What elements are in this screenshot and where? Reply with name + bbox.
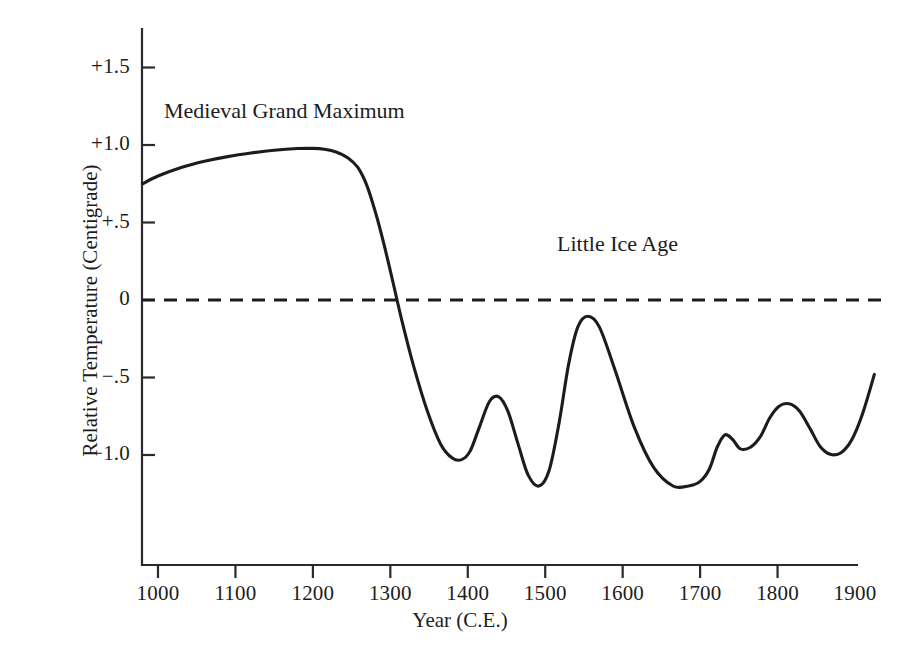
y-tick-label: 0 [40, 286, 130, 311]
annotation-little-ice-age: Little Ice Age [557, 231, 678, 257]
y-tick-label: +.5 [40, 209, 130, 234]
chart-figure: Relative Temperature (Centigrade) Year (… [0, 0, 918, 670]
temperature-curve [143, 148, 875, 487]
y-tick-label: +1.5 [40, 54, 130, 79]
x-axis-label: Year (C.E.) [330, 608, 590, 633]
y-tick-label: −.5 [40, 364, 130, 389]
x-tick-label: 1900 [810, 581, 900, 606]
chart-plot-area [0, 0, 918, 670]
x-axis-ticks [158, 565, 778, 578]
y-tick-label: −1.0 [40, 441, 130, 466]
y-axis-ticks [142, 68, 155, 456]
annotation-medieval-grand-maximum: Medieval Grand Maximum [164, 98, 405, 124]
y-tick-label: +1.0 [40, 131, 130, 156]
